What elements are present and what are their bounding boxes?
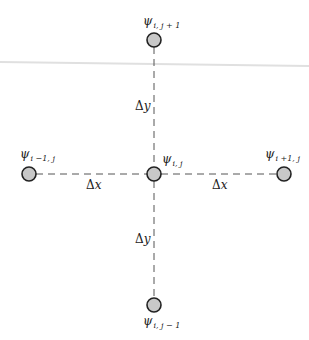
delta-x-left: Δx	[86, 178, 102, 192]
subscript: i +1, j	[275, 154, 300, 163]
variable: y	[143, 99, 151, 113]
node-center	[147, 167, 161, 181]
label-right: ψi +1, j	[265, 147, 300, 163]
variable: x	[95, 178, 102, 192]
delta-x-right: Δx	[212, 178, 228, 192]
label-top: ψi, j + 1	[143, 14, 180, 30]
subscript: i, j + 1	[153, 21, 180, 30]
psi-symbol: ψ	[265, 147, 275, 161]
delta-y-top: Δy	[135, 99, 151, 113]
node-top	[147, 33, 161, 47]
delta-y-bottom: Δy	[135, 232, 151, 246]
label-bottom: ψi, j − 1	[143, 314, 180, 330]
delta-symbol: Δ	[135, 232, 144, 246]
delta-symbol: Δ	[86, 178, 95, 192]
psi-symbol: ψ	[20, 147, 30, 161]
psi-symbol: ψ	[143, 14, 153, 28]
subscript: i, j − 1	[153, 321, 180, 330]
psi-symbol: ψ	[162, 152, 172, 166]
psi-symbol: ψ	[143, 314, 153, 328]
subscript: i −1, j	[30, 154, 55, 163]
label-left: ψi −1, j	[20, 147, 55, 163]
node-right	[277, 167, 291, 181]
label-center: ψi, j	[162, 152, 183, 168]
subscript: i, j	[172, 159, 183, 168]
node-bottom	[147, 298, 161, 312]
node-left	[22, 167, 36, 181]
delta-symbol: Δ	[212, 178, 221, 192]
stencil-diagram: ψi, j + 1 ψi, j ψi −1, j ψi +1, j ψi, j …	[0, 0, 309, 340]
variable: y	[143, 232, 151, 246]
delta-symbol: Δ	[135, 99, 144, 113]
variable: x	[221, 178, 228, 192]
